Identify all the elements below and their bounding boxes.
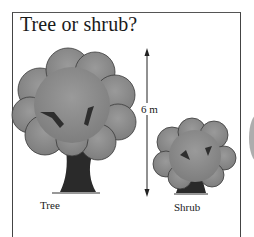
shrub-label: Shrub — [174, 201, 200, 213]
height-arrow — [145, 48, 150, 197]
partial-figure-edge — [249, 114, 254, 162]
tree-illustration — [12, 48, 136, 193]
illustration — [0, 0, 254, 237]
height-label: 6 m — [140, 103, 159, 115]
shrub-illustration — [153, 118, 236, 194]
tree-label: Tree — [40, 199, 60, 211]
